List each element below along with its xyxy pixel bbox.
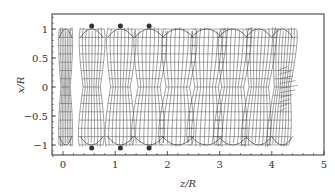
y-tick-label: 1 [42, 24, 48, 35]
y-axis-ticks: 10.50−0.5−1 [24, 17, 56, 156]
y-tick-label: 0 [42, 82, 48, 93]
ring-marker [147, 24, 152, 29]
vortex-ring [267, 27, 297, 146]
vortex-ring [187, 27, 227, 146]
x-tick-label: 2 [164, 159, 170, 170]
plot-area [59, 24, 298, 151]
vortex-ring [241, 27, 276, 146]
x-axis-label: z/R [179, 178, 197, 189]
ring-marker [118, 24, 123, 29]
ring-marker [89, 24, 94, 29]
x-tick-label: 5 [321, 159, 327, 170]
ring-marker [147, 145, 152, 150]
y-tick-label: −0.5 [24, 111, 48, 122]
x-tick-label: 3 [216, 159, 222, 170]
vortex-ring [59, 27, 73, 146]
y-axis-label: x/R [15, 76, 26, 93]
vortex-ring [78, 27, 105, 146]
vortex-ring-chart: 012345 10.50−0.5−1 z/R x/R [0, 0, 335, 196]
vortex-ring [105, 27, 136, 146]
y-tick-label: −1 [33, 140, 48, 151]
x-axis-ticks: 012345 [53, 151, 328, 170]
ring-marker [118, 145, 123, 150]
y-tick-label: 0.5 [32, 53, 48, 64]
x-tick-label: 0 [60, 159, 66, 170]
x-tick-label: 1 [112, 159, 118, 170]
ring-marker [89, 145, 94, 150]
vortex-ring [214, 27, 252, 146]
x-tick-label: 4 [269, 159, 275, 170]
